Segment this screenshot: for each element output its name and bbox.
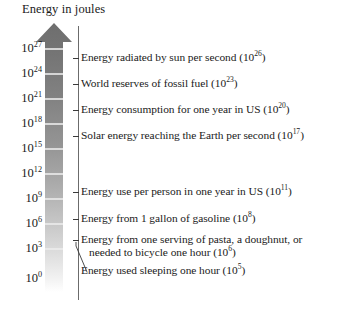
annotation-gallon-gasoline: Energy from 1 gallon of gasoline (108): [81, 212, 255, 225]
annotation-suffix: ): [288, 185, 292, 197]
annotation-exponent: 11: [281, 183, 288, 192]
annotation-label-line2-wrapper: needed to bicycle one hour (106): [81, 246, 333, 259]
annotation-pasta-doughnut-bicycle: Energy from one serving of pasta, a doug…: [81, 233, 333, 259]
annotation-suffix: ): [234, 77, 238, 89]
annotation-exponent: 23: [226, 75, 234, 84]
annotation-solar-reaching-earth: Solar energy reaching the Earth per seco…: [81, 129, 304, 142]
energy-scale-figure: Energy in joules: [0, 0, 338, 311]
annotation-suffix: ): [241, 264, 245, 276]
annotation-label: Solar energy reaching the Earth per seco…: [81, 129, 293, 141]
annotation-exponent: 17: [293, 127, 301, 136]
annotation-label-line2: needed to bicycle one hour (10: [89, 246, 228, 258]
tick-mark-1e11: [73, 192, 79, 193]
tick-mark-1e17: [73, 136, 79, 137]
annotation-per-person-annual: Energy use per person in one year in US …: [81, 185, 292, 198]
annotation-sun-radiated: Energy radiated by sun per second (1026): [81, 51, 265, 64]
tick-mark-1e20: [73, 110, 79, 111]
annotation-suffix: ): [286, 103, 290, 115]
annotation-label: Energy from 1 gallon of gasoline (10: [81, 212, 248, 224]
annotation-suffix: ): [232, 246, 236, 258]
annotation-sleeping-one-hour: Energy used sleeping one hour (105): [81, 264, 245, 277]
annotation-label: Energy use per person in one year in US …: [81, 185, 281, 197]
annotation-label: Energy consumption for one year in US (1…: [81, 103, 278, 115]
annotation-suffix: ): [300, 129, 304, 141]
annotation-exponent: 20: [278, 101, 286, 110]
tick-mark-1e8: [73, 219, 79, 220]
annotation-exponent: 26: [254, 49, 262, 58]
tick-mark-1e23: [73, 84, 79, 85]
annotation-label-line1: Energy from one serving of pasta, a doug…: [81, 233, 302, 245]
annotation-label: Energy radiated by sun per second (10: [81, 51, 254, 63]
annotation-suffix: ): [252, 212, 256, 224]
tick-mark-1e26: [73, 58, 79, 59]
annotation-us-annual-consumption: Energy consumption for one year in US (1…: [81, 103, 290, 116]
annotation-label: Energy used sleeping one hour (10: [81, 264, 238, 276]
annotation-layer: Energy radiated by sun per second (1026)…: [0, 0, 338, 311]
annotation-fossil-fuel-reserves: World reserves of fossil fuel (1023): [81, 77, 237, 90]
annotation-suffix: ): [262, 51, 266, 63]
annotation-label: World reserves of fossil fuel (10: [81, 77, 226, 89]
